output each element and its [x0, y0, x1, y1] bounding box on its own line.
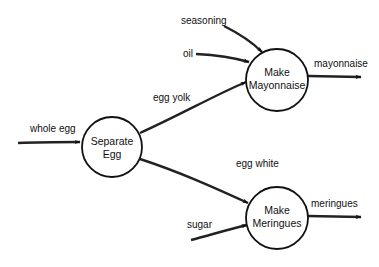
flow-mayonnaise: mayonnaise	[308, 58, 368, 77]
process-separate-egg-line1: Separate	[91, 135, 134, 147]
data-flow-diagram: whole egg egg yolk egg white seasoning o…	[0, 0, 379, 267]
process-separate-egg: Separate Egg	[82, 117, 142, 177]
process-make-meringues: Make Meringues	[246, 187, 308, 249]
flow-label-seasoning: seasoning	[181, 15, 227, 26]
process-make-meringues-line2: Meringues	[252, 217, 301, 229]
process-separate-egg-line2: Egg	[103, 148, 122, 160]
flow-label-whole-egg: whole egg	[29, 123, 76, 134]
flow-egg-yolk: egg yolk	[140, 82, 246, 133]
process-make-meringues-line1: Make	[264, 204, 290, 216]
flow-label-sugar: sugar	[187, 219, 213, 230]
flow-sugar: sugar	[187, 219, 247, 240]
flow-label-meringues: meringues	[311, 198, 358, 209]
flow-label-egg-yolk: egg yolk	[153, 92, 191, 103]
process-make-mayonnaise: Make Mayonnaise	[246, 49, 308, 111]
flow-meringues: meringues	[308, 198, 361, 217]
flow-label-oil: oil	[183, 48, 193, 59]
flow-label-mayonnaise: mayonnaise	[314, 58, 368, 69]
process-make-mayonnaise-line2: Mayonnaise	[249, 79, 306, 91]
flow-label-egg-white: egg white	[236, 158, 279, 169]
flow-whole-egg: whole egg	[18, 123, 80, 143]
flow-seasoning: seasoning	[181, 15, 262, 52]
flow-oil: oil	[183, 48, 249, 62]
process-make-mayonnaise-line1: Make	[264, 66, 290, 78]
